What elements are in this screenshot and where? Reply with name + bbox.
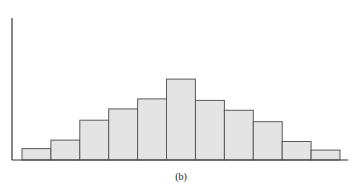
histogram-chart: (b) [0, 0, 363, 191]
histogram-bar [224, 110, 253, 160]
histogram-bar [80, 120, 109, 160]
histogram-bar [22, 149, 51, 160]
histogram-bar [109, 109, 138, 160]
histogram-bar [253, 122, 282, 160]
histogram-bar [51, 140, 80, 160]
histogram-bar [282, 142, 311, 161]
bars-group [22, 79, 340, 160]
histogram-bar [311, 150, 340, 160]
histogram-bar [167, 79, 196, 160]
histogram-bar [196, 100, 225, 160]
histogram-bar [138, 99, 167, 160]
chart-caption: (b) [175, 171, 187, 183]
